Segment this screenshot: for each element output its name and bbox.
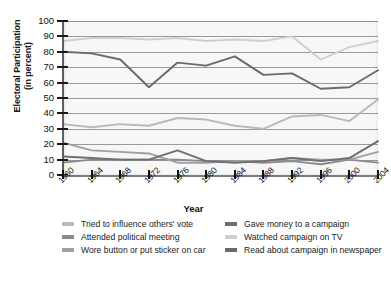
legend-item-label: Watched campaign on TV xyxy=(244,232,387,243)
y-tick-mark xyxy=(57,159,68,161)
y-tick-label: 90 xyxy=(24,30,54,41)
series-line xyxy=(63,52,378,89)
y-tick-label: 20 xyxy=(24,138,54,149)
legend-item-label: Attended political meeting xyxy=(81,232,222,243)
y-axis-tick-labels: 0102030405060708090100 xyxy=(20,0,54,282)
legend-item-label: Read about campaign in newspaper xyxy=(244,245,387,256)
legend-column-right: Gave money to a campaignWatched campaign… xyxy=(225,219,387,258)
legend-column-left: Tried to influence others' voteAttended … xyxy=(62,219,222,258)
legend-swatch-icon xyxy=(62,222,74,226)
legend-swatch-icon xyxy=(62,248,74,252)
y-tick-mark xyxy=(57,82,68,84)
legend-swatch-icon xyxy=(62,235,74,239)
legend-item[interactable]: Read about campaign in newspaper xyxy=(225,245,387,256)
legend-item[interactable]: Watched campaign on TV xyxy=(225,232,387,243)
y-tick-label: 40 xyxy=(24,107,54,118)
y-tick-mark xyxy=(57,51,68,53)
y-tick-label: 0 xyxy=(24,169,54,180)
y-tick-mark xyxy=(57,112,68,114)
y-tick-mark xyxy=(57,66,68,68)
legend-item-label: Tried to influence others' vote xyxy=(81,219,222,230)
y-tick-label: 10 xyxy=(24,154,54,165)
legend-swatch-icon xyxy=(225,248,237,252)
y-tick-label: 70 xyxy=(24,61,54,72)
x-axis-title: Year xyxy=(0,203,387,214)
x-axis-line xyxy=(62,175,379,177)
legend-swatch-icon xyxy=(225,222,237,226)
legend-item[interactable]: Gave money to a campaign xyxy=(225,219,387,230)
legend-item[interactable]: Attended political meeting xyxy=(62,232,222,243)
legend-item-label: Wore button or put sticker on car xyxy=(81,245,222,256)
plot-area xyxy=(63,21,378,175)
legend-item[interactable]: Tried to influence others' vote xyxy=(62,219,222,230)
series-line xyxy=(63,36,378,59)
y-tick-label: 50 xyxy=(24,92,54,103)
y-tick-mark xyxy=(57,97,68,99)
series-line xyxy=(63,100,378,129)
y-tick-label: 60 xyxy=(24,77,54,88)
legend-item[interactable]: Wore button or put sticker on car xyxy=(62,245,222,256)
legend-swatch-icon xyxy=(225,235,237,239)
y-tick-label: 100 xyxy=(24,15,54,26)
y-tick-label: 80 xyxy=(24,46,54,57)
y-tick-mark xyxy=(57,35,68,37)
y-tick-mark xyxy=(57,143,68,145)
y-tick-mark xyxy=(57,128,68,130)
legend-item-label: Gave money to a campaign xyxy=(244,219,387,230)
y-tick-mark xyxy=(57,20,68,22)
series-lines xyxy=(63,21,378,175)
y-tick-label: 30 xyxy=(24,123,54,134)
